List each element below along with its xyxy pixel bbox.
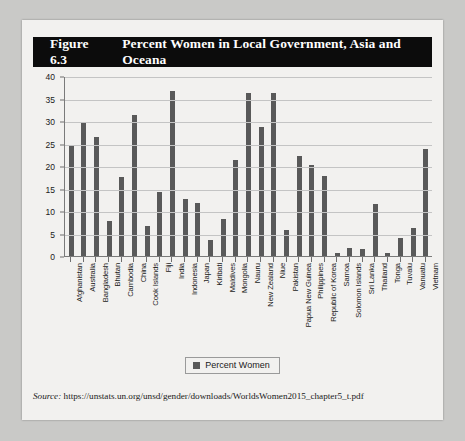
y-axis-tick-label: 15 — [46, 185, 55, 195]
x-axis-tick-mark — [349, 257, 350, 262]
x-axis-tick-slot — [330, 257, 343, 262]
x-axis-label-slot: Thailand — [369, 263, 382, 333]
y-axis-tick-label: 0 — [50, 252, 55, 262]
x-axis-tick-mark — [121, 257, 122, 262]
x-axis-tick-mark — [298, 257, 299, 262]
y-axis-tick-label: 25 — [46, 140, 55, 150]
bar[interactable] — [145, 226, 150, 258]
x-axis-tick-mark — [222, 257, 223, 262]
bar[interactable] — [221, 219, 226, 257]
x-axis-label-slot: New Zealand — [254, 263, 267, 333]
figure-card: Figure 6.3 Percent Women in Local Govern… — [22, 20, 443, 420]
x-axis-tick-slot — [254, 257, 267, 262]
y-axis-tick-label: 5 — [50, 230, 55, 240]
bar[interactable] — [322, 176, 327, 257]
x-axis-tick-slot — [127, 257, 140, 262]
x-axis-tick-slot — [89, 257, 102, 262]
x-axis-label-slot: Cook Islands — [140, 263, 153, 333]
x-axis-tick-mark — [171, 257, 172, 262]
legend-label-percent-women: Percent Women — [205, 360, 269, 370]
x-axis-tick-slot — [394, 257, 407, 262]
y-axis-tick-label: 35 — [46, 95, 55, 105]
y-axis-tick-label: 10 — [46, 207, 55, 217]
gridline — [65, 235, 432, 236]
x-axis-tick-mark — [95, 257, 96, 262]
bar[interactable] — [259, 127, 264, 258]
legend-swatch-percent-women — [193, 362, 200, 369]
bar[interactable] — [69, 145, 74, 258]
x-axis-tick-mark — [324, 257, 325, 262]
x-axis-tick-mark — [400, 257, 401, 262]
bar[interactable] — [132, 115, 137, 257]
x-axis-label-slot: Afghanistan — [64, 263, 77, 333]
x-axis-tick-slot — [77, 257, 90, 262]
x-axis-tick-mark — [336, 257, 337, 262]
bar[interactable] — [309, 165, 314, 257]
x-axis-tick-mark — [387, 257, 388, 262]
x-axis-tick-mark — [412, 257, 413, 262]
bar[interactable] — [208, 240, 213, 257]
x-axis-label-slot: Vietnam — [419, 263, 432, 333]
x-axis-tick-mark — [247, 257, 248, 262]
x-axis-tick-mark — [108, 257, 109, 262]
gridline — [65, 77, 432, 78]
x-axis-labels: AfghanistanAustraliaBangladeshBhutanCamb… — [64, 263, 432, 333]
x-axis-tick-slot — [204, 257, 217, 262]
x-axis-tick-mark — [374, 257, 375, 262]
x-axis-tick-slot — [356, 257, 369, 262]
x-axis-ticks — [64, 257, 432, 262]
x-axis-tick-mark — [83, 257, 84, 262]
legend-box: Percent Women — [185, 357, 279, 374]
x-axis-label-slot: India — [166, 263, 179, 333]
x-axis-label-slot: Vanuatu — [407, 263, 420, 333]
x-axis-label-slot: Republic of Korea — [318, 263, 331, 333]
x-axis-label-slot: Japan — [191, 263, 204, 333]
x-axis-tick-slot — [267, 257, 280, 262]
bar[interactable] — [423, 149, 428, 257]
bar[interactable] — [107, 221, 112, 257]
x-axis-tick-mark — [273, 257, 274, 262]
bar[interactable] — [94, 137, 99, 257]
x-axis-tick-slot — [191, 257, 204, 262]
x-axis-tick-slot — [216, 257, 229, 262]
bar[interactable] — [170, 91, 175, 258]
y-axis-tick-label: 40 — [46, 72, 55, 82]
x-axis-tick-mark — [70, 257, 71, 262]
x-axis-tick-mark — [362, 257, 363, 262]
x-axis-tick-mark — [235, 257, 236, 262]
x-axis-tick-mark — [159, 257, 160, 262]
figure-number: Figure 6.3 — [50, 36, 106, 68]
x-axis-tick-slot — [153, 257, 166, 262]
x-axis-tick-slot — [305, 257, 318, 262]
x-axis-tick-slot — [242, 257, 255, 262]
bar[interactable] — [233, 160, 238, 257]
gridline — [65, 100, 432, 101]
x-axis-tick-mark — [311, 257, 312, 262]
x-axis-tick-mark — [286, 257, 287, 262]
x-axis-label-slot: Bangladesh — [89, 263, 102, 333]
x-axis-tick-mark — [197, 257, 198, 262]
bar[interactable] — [246, 93, 251, 257]
x-axis-tick-mark — [184, 257, 185, 262]
plot-grid — [64, 77, 432, 257]
x-axis-label-slot: Mongolia — [229, 263, 242, 333]
bar[interactable] — [411, 228, 416, 257]
bar[interactable] — [183, 199, 188, 258]
x-axis-label-slot: Tuvalu — [394, 263, 407, 333]
x-axis-tick-mark — [425, 257, 426, 262]
x-axis-label-slot: Solomon Islands — [343, 263, 356, 333]
bar[interactable] — [271, 93, 276, 257]
x-axis-tick-slot — [369, 257, 382, 262]
source-note: Source: https://unstats.un.org/unsd/gend… — [33, 391, 364, 401]
bar[interactable] — [157, 192, 162, 257]
bar-chart: 0510152025303540 AfghanistanAustraliaBan… — [36, 77, 432, 297]
bar[interactable] — [398, 238, 403, 257]
x-axis-tick-mark — [133, 257, 134, 262]
x-axis-label-slot: Australia — [77, 263, 90, 333]
gridline — [65, 122, 432, 123]
x-axis-tick-slot — [381, 257, 394, 262]
x-axis-label-slot: Cambodia — [115, 263, 128, 333]
bar[interactable] — [297, 156, 302, 257]
x-axis-tick-slot — [115, 257, 128, 262]
figure-title-bar: Figure 6.3 Percent Women in Local Govern… — [33, 37, 432, 67]
